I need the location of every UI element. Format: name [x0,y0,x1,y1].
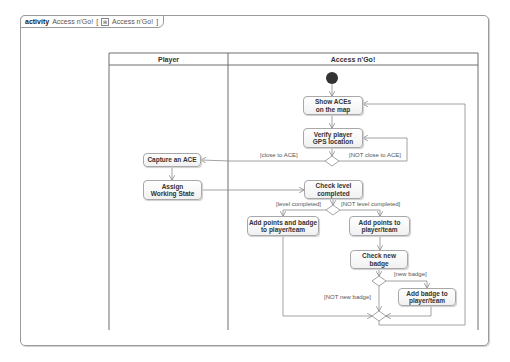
swimlane-header-player: Player [109,53,228,66]
action-check-new-badge[interactable]: Check new badge [350,250,408,269]
action-add-badge[interactable]: Add badge to player/team [398,288,456,306]
action-check-level[interactable]: Check level completed [304,180,363,199]
action-show-aces[interactable]: Show ACEs on the map [303,96,363,115]
action-assign-working-state[interactable]: Assign Working State [143,180,202,200]
decision-new-badge [372,276,386,286]
guard-not-new-badge: [NOT new badge] [324,294,371,301]
guard-not-close-to-ace: [NOT close to ACE] [349,152,401,159]
decision-close-to-ace [325,156,339,166]
action-capture-ace[interactable]: Capture an ACE [143,153,201,167]
guard-level-completed: [level completed] [276,201,321,208]
action-verify-gps[interactable]: Verify player GPS location [303,128,363,148]
guard-close-to-ace: [close to ACE] [260,152,298,159]
merge-node [372,311,386,321]
swimlane-header-access-n-go: Access n'Go! [228,53,478,66]
initial-node [326,72,338,84]
guard-new-badge: [new badge] [394,271,427,278]
decision-level-completed [326,205,340,215]
guard-not-level-completed: [NOT level completed] [341,201,400,208]
action-add-points[interactable]: Add points to player/team [349,216,410,236]
action-add-points-and-badge[interactable]: Add points and badge to player/team [247,216,319,236]
